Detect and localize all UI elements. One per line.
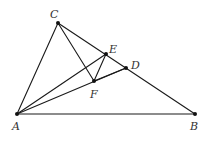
point-a	[15, 112, 19, 116]
label-b: B	[189, 120, 198, 133]
segment-cf	[58, 23, 94, 81]
geometry-figure: ABCDEF	[0, 0, 208, 146]
point-d	[124, 66, 128, 70]
point-c	[56, 21, 60, 25]
label-d: D	[130, 59, 140, 72]
points	[15, 21, 197, 116]
segments	[17, 23, 195, 114]
point-b	[193, 112, 197, 116]
label-e: E	[108, 43, 117, 56]
point-e	[104, 52, 108, 56]
label-a: A	[11, 120, 20, 133]
label-f: F	[89, 88, 98, 101]
point-f	[92, 79, 96, 83]
label-c: C	[50, 8, 59, 21]
